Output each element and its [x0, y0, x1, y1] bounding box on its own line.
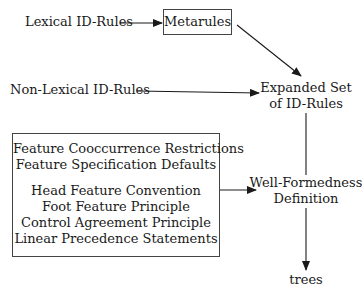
well-formedness-label-line2: Definition	[274, 191, 339, 207]
metarules-label: Metarules	[164, 14, 231, 29]
well-formedness-label-line1: Well-Formedness	[250, 175, 362, 191]
non-lexical-id-rules-label: Non-Lexical ID-Rules	[10, 82, 150, 98]
constraint-control-agreement-principle: Control Agreement Principle	[13, 215, 219, 231]
trees-label: trees	[289, 272, 323, 288]
expanded-set-label-line2: of ID-Rules	[269, 96, 343, 112]
edge-metarules-to-expanded	[237, 25, 301, 76]
edge-nonlexical-to-expanded	[137, 91, 259, 93]
constraints-box: Feature Cooccurrence Restrictions Featur…	[12, 133, 220, 257]
constraint-linear-precedence-statements: Linear Precedence Statements	[13, 231, 219, 247]
constraint-head-feature-convention: Head Feature Convention	[13, 183, 219, 199]
constraint-feature-cooccurrence: Feature Cooccurrence Restrictions	[13, 141, 219, 157]
expanded-set-label-line1: Expanded Set	[260, 80, 352, 96]
constraint-feature-specification-defaults: Feature Specification Defaults	[13, 157, 219, 173]
constraint-foot-feature-principle: Foot Feature Principle	[13, 199, 219, 215]
lexical-id-rules-label: Lexical ID-Rules	[25, 14, 133, 30]
metarules-box: Metarules	[163, 9, 232, 35]
